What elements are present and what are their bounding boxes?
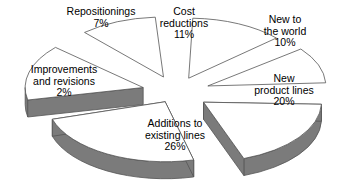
pie-slice-new-product-lines (204, 102, 322, 175)
pie-chart-svg (0, 0, 347, 189)
pie-chart-figure: Repositionings7%Costreductions11%New tot… (0, 0, 347, 189)
pie-slice-improvements-and-revisions (25, 47, 143, 117)
pie-slice-additions-to-existing-lines (52, 102, 193, 179)
